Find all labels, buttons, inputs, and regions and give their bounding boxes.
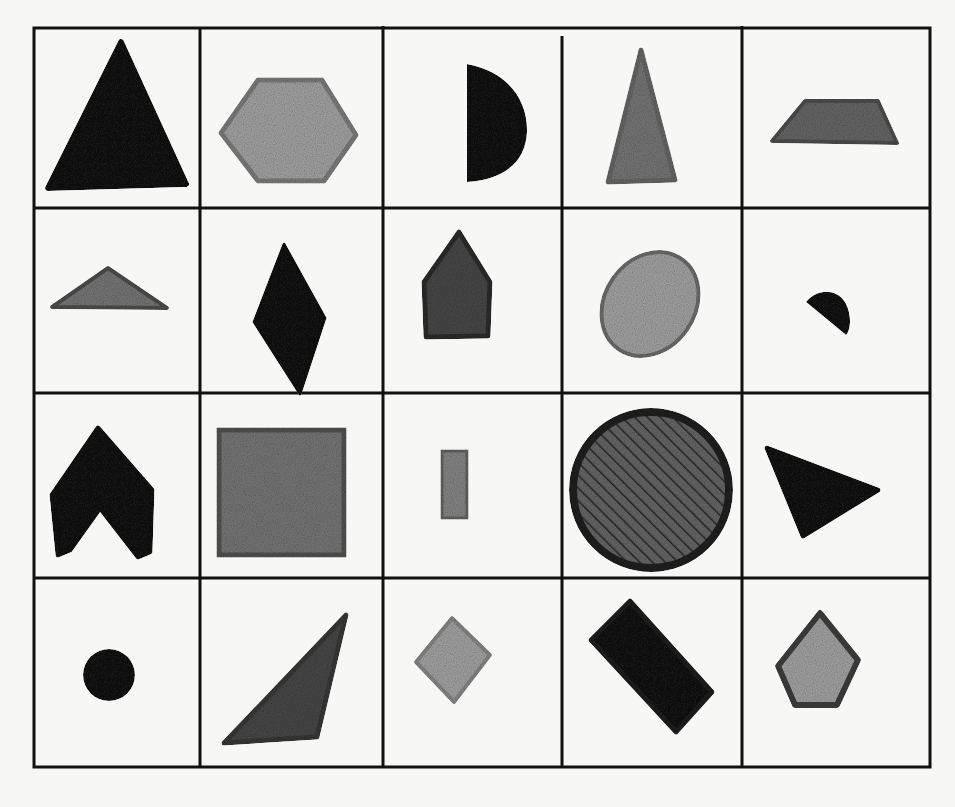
semicircle-icon [467, 64, 527, 182]
scalene-triangle-icon [224, 615, 346, 743]
trapezoid-icon [772, 101, 897, 143]
hatched-circle-icon [573, 412, 729, 568]
house-pentagon-icon [424, 232, 490, 337]
ellipse-icon [582, 233, 719, 375]
diamond-square-icon [416, 618, 490, 702]
small-semicircle-icon [806, 292, 850, 335]
rhombus-icon [254, 244, 325, 394]
small-rectangle-icon [442, 451, 467, 518]
square-icon [219, 430, 344, 555]
rotated-rectangle-icon [591, 601, 712, 732]
pentagon-icon [778, 613, 858, 705]
small-circle-icon [83, 649, 135, 701]
triangle-right-icon [767, 448, 878, 536]
hexagon-icon [221, 80, 356, 181]
shape-grid-canvas [0, 0, 955, 807]
chevron-icon [52, 428, 152, 557]
shape-grid-figure [0, 0, 955, 807]
obtuse-triangle-icon [52, 268, 167, 308]
triangle-equilateral-icon [48, 42, 186, 188]
tall-triangle-icon [608, 50, 675, 182]
